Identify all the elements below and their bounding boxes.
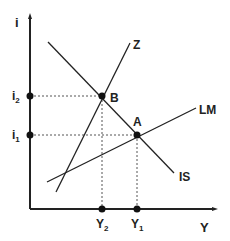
tick-i1-label: i1 xyxy=(12,128,20,144)
tick-y2-dot xyxy=(99,206,106,213)
x-axis-arrow-icon xyxy=(212,207,218,211)
is-curve xyxy=(48,42,174,173)
y-axis-label: i xyxy=(15,15,19,30)
z-curve xyxy=(56,43,130,192)
points xyxy=(27,93,141,213)
point-a xyxy=(134,132,141,139)
axes: i Y xyxy=(15,13,218,235)
point-b-label: B xyxy=(110,91,119,105)
lm-label: LM xyxy=(199,103,216,117)
tick-i1-dot xyxy=(27,132,34,139)
is-lm-diagram: i Y IS LM Z B A i2 i1 Y2 Y1 xyxy=(0,0,230,241)
point-b xyxy=(99,93,106,100)
tick-y1-dot xyxy=(134,206,141,213)
tick-y2-label: Y2 xyxy=(96,217,109,233)
tick-y1-label: Y1 xyxy=(131,217,144,233)
curve-labels: IS LM Z xyxy=(133,38,216,184)
x-axis-label: Y xyxy=(200,220,209,235)
tick-i2-label: i2 xyxy=(12,89,20,105)
tick-labels: i2 i1 Y2 Y1 xyxy=(12,89,144,233)
tick-i2-dot xyxy=(27,93,34,100)
guide-lines xyxy=(30,96,137,209)
z-label: Z xyxy=(133,38,140,52)
point-a-label: A xyxy=(133,115,142,129)
y-axis-arrow-icon xyxy=(28,13,32,19)
curves xyxy=(47,42,196,192)
is-label: IS xyxy=(179,170,190,184)
